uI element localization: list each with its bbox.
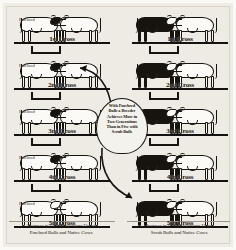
- generation-row[interactable]: Purebred 5th Cross: [6, 192, 121, 230]
- callout-line-6: Scrub Bulls: [100, 129, 144, 134]
- pedigree-connector: [31, 138, 33, 144]
- purebred-tag: Purebred: [19, 155, 35, 160]
- generation-row[interactable]: Purebred 4th Cross: [6, 146, 121, 184]
- generation-row[interactable]: Purebred 2nd Cross: [6, 54, 121, 92]
- generation-label: 1st Cross: [6, 35, 121, 43]
- poster-plate: Purebred 1st Cross Pur: [6, 6, 230, 244]
- generation-row[interactable]: 2nd Cross: [121, 54, 230, 92]
- callout-bubble[interactable]: With Purebred Bulls a Breeder Achieves M…: [96, 98, 148, 154]
- pedigree-connector: [149, 92, 151, 98]
- caption-line-2: Purebred Bulls and Native Cows: [6, 230, 117, 237]
- pedigree-connector: [31, 184, 33, 190]
- poster-frame: Purebred 1st Cross Pur: [0, 0, 236, 250]
- generation-row[interactable]: 5th Cross: [121, 192, 230, 230]
- generation-row[interactable]: 4th Cross: [121, 146, 230, 184]
- purebred-tag: Purebred: [19, 17, 35, 22]
- purebred-tag: Purebred: [19, 109, 35, 114]
- pedigree-connector: [149, 52, 179, 54]
- pedigree-connector: [149, 46, 151, 52]
- pedigree-connector: [149, 144, 179, 146]
- purebred-tag: Purebred: [19, 63, 35, 68]
- pedigree-connector: [149, 184, 151, 190]
- generation-label: 5th Cross: [121, 219, 230, 227]
- generation-label: 2nd Cross: [6, 81, 121, 89]
- generation-row[interactable]: Purebred 1st Cross: [6, 8, 121, 46]
- pedigree-connector: [31, 144, 61, 146]
- pedigree-connector: [31, 46, 33, 52]
- generation-label: 2nd Cross: [121, 81, 230, 89]
- pedigree-connector: [149, 190, 179, 192]
- pedigree-connector: [149, 138, 151, 144]
- generation-label: 1st Cross: [121, 35, 230, 43]
- pedigree-connector: [31, 52, 61, 54]
- generation-label: 4th Cross: [121, 173, 230, 181]
- generation-label: 4th Cross: [6, 173, 121, 181]
- generation-row[interactable]: 1st Cross: [121, 8, 230, 46]
- pedigree-connector: [31, 98, 61, 100]
- purebred-tag: Purebred: [19, 201, 35, 206]
- pedigree-connector: [149, 98, 179, 100]
- generation-label: 5th Cross: [6, 219, 121, 227]
- pedigree-connector: [31, 190, 61, 192]
- caption-line-2: Scrub Bulls and Native Cows: [123, 230, 230, 237]
- pedigree-connector: [31, 92, 33, 98]
